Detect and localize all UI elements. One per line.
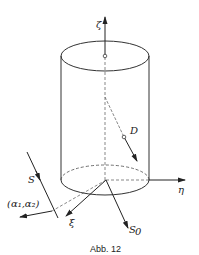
s0-subscript: 0 — [135, 226, 142, 237]
alpha-label: (α₁,α₂) — [7, 198, 40, 209]
s-label: S — [28, 174, 35, 185]
alpha-dashed-line — [52, 180, 106, 211]
cylinder-diagram: ζ η ξ D S S 0 (α₁,α₂) Abb. 12 — [0, 0, 199, 255]
alpha-arrow — [20, 211, 52, 217]
xi-label: ξ — [69, 217, 75, 228]
figure-caption: Abb. 12 — [90, 244, 121, 254]
eta-label: η — [178, 184, 184, 195]
zeta-label: ζ — [96, 19, 102, 30]
d-label: D — [129, 125, 138, 136]
xi-axis — [66, 180, 106, 216]
s0-arrow — [106, 180, 128, 228]
